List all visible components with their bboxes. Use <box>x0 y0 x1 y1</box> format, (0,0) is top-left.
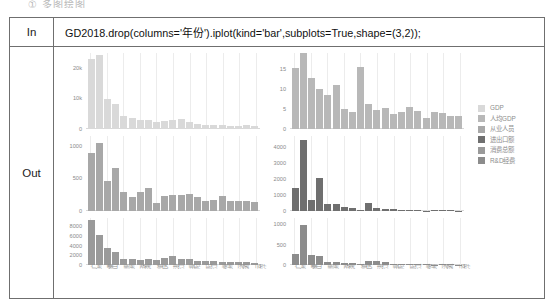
bar[interactable] <box>137 192 144 211</box>
bar[interactable] <box>341 109 348 129</box>
bar[interactable] <box>129 197 136 211</box>
plot-area[interactable]: 051015 <box>290 53 464 129</box>
legend-item[interactable]: R&D经费 <box>478 157 516 165</box>
bar[interactable] <box>308 200 315 211</box>
bar[interactable] <box>300 225 307 265</box>
bar[interactable] <box>447 116 454 129</box>
bar[interactable] <box>145 120 152 129</box>
bar[interactable] <box>431 112 438 129</box>
bar[interactable] <box>316 89 323 128</box>
bar[interactable] <box>373 208 380 212</box>
bar[interactable] <box>390 209 397 211</box>
bar[interactable] <box>161 121 168 129</box>
bar[interactable] <box>219 196 226 211</box>
bar[interactable] <box>308 78 315 128</box>
bar[interactable] <box>120 116 127 128</box>
bar[interactable] <box>161 196 168 212</box>
bar[interactable] <box>153 122 160 129</box>
bar[interactable] <box>324 95 331 128</box>
bar[interactable] <box>251 126 258 129</box>
bar[interactable] <box>194 197 201 212</box>
plot-area[interactable]: 05001000 <box>86 136 260 212</box>
bar[interactable] <box>431 210 438 211</box>
bar[interactable] <box>120 192 127 211</box>
bar[interactable] <box>186 194 193 212</box>
bar[interactable] <box>447 210 454 211</box>
legend-item[interactable]: 进出口额 <box>478 136 516 144</box>
bar[interactable] <box>439 113 446 129</box>
bar[interactable] <box>439 210 446 211</box>
bar[interactable] <box>357 210 364 211</box>
bar[interactable] <box>202 201 209 211</box>
bar[interactable] <box>300 53 307 128</box>
bar[interactable] <box>382 209 389 212</box>
bar[interactable] <box>398 210 405 211</box>
bar[interactable] <box>96 55 103 128</box>
legend-item[interactable]: 人均GDP <box>478 115 516 123</box>
legend-item[interactable]: 消费总额 <box>478 146 516 154</box>
bar[interactable] <box>292 188 299 211</box>
code-input[interactable]: GD2018.drop(columns='年份').iplot(kind='ba… <box>54 18 544 46</box>
bar[interactable] <box>349 112 356 129</box>
bar[interactable] <box>96 235 103 265</box>
bar[interactable] <box>88 153 95 212</box>
bar[interactable] <box>194 124 201 129</box>
bar[interactable] <box>112 104 119 129</box>
bar[interactable] <box>341 207 348 211</box>
bar[interactable] <box>219 125 226 128</box>
bar[interactable] <box>235 126 242 129</box>
bar[interactable] <box>169 195 176 211</box>
bar[interactable] <box>292 68 299 129</box>
plot-area[interactable]: 02000400060008000广州佛山惠州珠海肇庆湛江揭阳阳江梅州河源云浮 <box>86 218 260 265</box>
bar[interactable] <box>186 122 193 129</box>
bar[interactable] <box>414 111 421 129</box>
bar[interactable] <box>169 120 176 129</box>
bar[interactable] <box>178 119 185 128</box>
bar[interactable] <box>145 188 152 211</box>
bar[interactable] <box>227 201 234 212</box>
bar[interactable] <box>333 85 340 129</box>
bar[interactable] <box>137 120 144 129</box>
bar[interactable] <box>104 181 111 211</box>
bar[interactable] <box>398 112 405 129</box>
bar[interactable] <box>227 126 234 129</box>
bar[interactable] <box>251 202 258 211</box>
bar[interactable] <box>390 114 397 129</box>
legend-item[interactable]: 从业人员 <box>478 125 516 133</box>
bar[interactable] <box>316 178 323 211</box>
bar[interactable] <box>96 143 103 212</box>
bar[interactable] <box>210 125 217 129</box>
bar[interactable] <box>406 210 413 211</box>
bar[interactable] <box>365 203 372 212</box>
bar[interactable] <box>455 116 462 129</box>
bar[interactable] <box>243 125 250 128</box>
bar[interactable] <box>333 204 340 211</box>
bar[interactable] <box>373 110 380 129</box>
bar[interactable] <box>406 107 413 129</box>
bar[interactable] <box>414 210 421 211</box>
bar[interactable] <box>129 118 136 129</box>
bar[interactable] <box>382 108 389 129</box>
bar[interactable] <box>423 118 430 129</box>
bar[interactable] <box>324 204 331 212</box>
bar[interactable] <box>300 140 307 212</box>
bar[interactable] <box>178 195 185 211</box>
bar[interactable] <box>202 125 209 129</box>
bar[interactable] <box>365 104 372 129</box>
bar[interactable] <box>243 201 250 211</box>
bar[interactable] <box>210 200 217 212</box>
plot-area[interactable]: 010k20k <box>86 53 260 129</box>
bar[interactable] <box>349 208 356 211</box>
bar[interactable] <box>357 67 364 129</box>
bar[interactable] <box>112 168 119 211</box>
legend-item[interactable]: GDP <box>478 104 516 112</box>
bar[interactable] <box>455 211 462 212</box>
plot-area[interactable]: 01000200030004000 <box>290 136 464 212</box>
bar[interactable] <box>423 211 430 212</box>
bar[interactable] <box>88 220 95 265</box>
plot-area[interactable]: 05001000广州佛山惠州珠海肇庆湛江揭阳阳江梅州河源云浮 <box>290 218 464 265</box>
bar[interactable] <box>153 203 160 212</box>
bar[interactable] <box>88 59 95 128</box>
bar[interactable] <box>235 201 242 211</box>
bar[interactable] <box>104 99 111 129</box>
